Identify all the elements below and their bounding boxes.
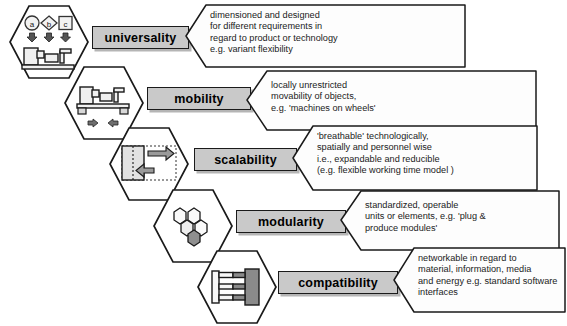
- callout-scalability: 'breathable' technologically, spatially …: [291, 124, 539, 196]
- callout-line: networkable in regard to: [418, 253, 557, 264]
- callout-line: dimensioned and designed: [210, 10, 338, 21]
- label-universality[interactable]: universality: [92, 26, 189, 49]
- callout-line: e.g. 'machines on wheels': [271, 103, 376, 114]
- callout-compatibility-text: networkable in regard to material, infor…: [418, 253, 557, 299]
- label-scalability-text: scalability: [214, 153, 277, 167]
- callout-line: interfaces: [418, 287, 557, 298]
- callout-line: i.e., expandable and reducible: [317, 154, 454, 165]
- label-universality-text: universality: [105, 31, 177, 45]
- label-compatibility-text: compatibility: [298, 276, 378, 290]
- callout-line: locally unrestricted: [271, 80, 376, 91]
- svg-text:b: b: [47, 20, 52, 29]
- svg-text:a: a: [30, 20, 35, 29]
- label-scalability[interactable]: scalability: [194, 148, 297, 171]
- label-modularity[interactable]: modularity: [236, 210, 346, 233]
- callout-line: units or elements, e.g. 'plug &: [365, 211, 486, 222]
- compatibility-hexagon-icon: [196, 249, 278, 325]
- callout-line: 'breathable' technologically,: [317, 131, 454, 142]
- callout-mobility-text: locally unrestricted movability of objec…: [271, 80, 376, 114]
- callout-line: spatially and personnel wise: [317, 142, 454, 153]
- label-mobility[interactable]: mobility: [147, 87, 251, 110]
- callout-line: material, information, media: [418, 264, 557, 275]
- label-compatibility[interactable]: compatibility: [278, 271, 398, 294]
- label-mobility-text: mobility: [174, 92, 224, 106]
- callout-line: movability of objects,: [271, 91, 376, 102]
- label-modularity-text: modularity: [258, 215, 324, 229]
- callout-universality-text: dimensioned and designed for different r…: [210, 10, 338, 56]
- callout-line: produce modules': [365, 223, 486, 234]
- svg-text:c: c: [64, 20, 68, 29]
- callout-line: standardized, operable: [365, 200, 486, 211]
- callout-modularity-text: standardized, operable units or elements…: [365, 200, 486, 234]
- callout-line: (e.g. flexible working time model ): [317, 165, 454, 176]
- callout-line: regard to product or technology: [210, 33, 338, 44]
- callout-line: for different requirements in: [210, 21, 338, 32]
- callout-universality: dimensioned and designed for different r…: [184, 3, 467, 73]
- callout-line: e.g. variant flexibility: [210, 44, 338, 55]
- callout-line: and energy e.g. standard software: [418, 276, 557, 287]
- callout-compatibility: networkable in regard to material, infor…: [392, 246, 567, 318]
- callout-scalability-text: 'breathable' technologically, spatially …: [317, 131, 454, 177]
